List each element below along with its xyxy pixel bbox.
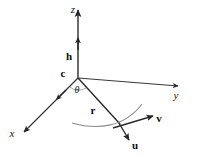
axis-label-x: x	[9, 127, 15, 139]
axis-x-mid-arrow-icon	[58, 90, 66, 98]
coordinate-diagram: z y x c h r v u θ	[0, 0, 198, 156]
angle-label-theta: θ	[75, 84, 80, 95]
vector-r	[78, 78, 120, 124]
vector-r-line	[78, 78, 120, 124]
vector-label-v: v	[156, 112, 162, 124]
axis-label-y: y	[173, 89, 179, 101]
axis-y-line	[78, 78, 178, 86]
vector-label-u: u	[132, 139, 138, 151]
vector-label-h: h	[66, 50, 72, 62]
axis-y	[78, 78, 178, 86]
axis-x-line	[24, 78, 78, 132]
axis-label-z: z	[70, 3, 76, 15]
vector-label-r: r	[91, 104, 96, 116]
axis-x	[24, 78, 78, 132]
figure-canvas: z y x c h r v u θ	[0, 0, 198, 156]
point-label-c: c	[61, 67, 66, 79]
